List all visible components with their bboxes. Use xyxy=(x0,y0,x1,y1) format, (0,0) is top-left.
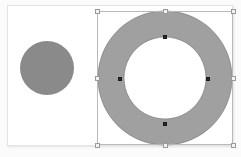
handle-top-center[interactable] xyxy=(163,9,168,14)
handle-bottom-left[interactable] xyxy=(95,143,100,148)
node-inner-top[interactable] xyxy=(163,35,167,39)
handle-top-right[interactable] xyxy=(231,9,236,14)
node-inner-left[interactable] xyxy=(118,77,122,81)
editor-canvas-area xyxy=(0,0,241,157)
handle-bottom-center[interactable] xyxy=(163,143,168,148)
node-inner-right[interactable] xyxy=(206,77,210,81)
handle-middle-right[interactable] xyxy=(231,76,236,81)
node-inner-bottom[interactable] xyxy=(163,122,167,126)
handle-top-left[interactable] xyxy=(95,9,100,14)
handle-middle-left[interactable] xyxy=(95,76,100,81)
handle-bottom-right[interactable] xyxy=(231,143,236,148)
